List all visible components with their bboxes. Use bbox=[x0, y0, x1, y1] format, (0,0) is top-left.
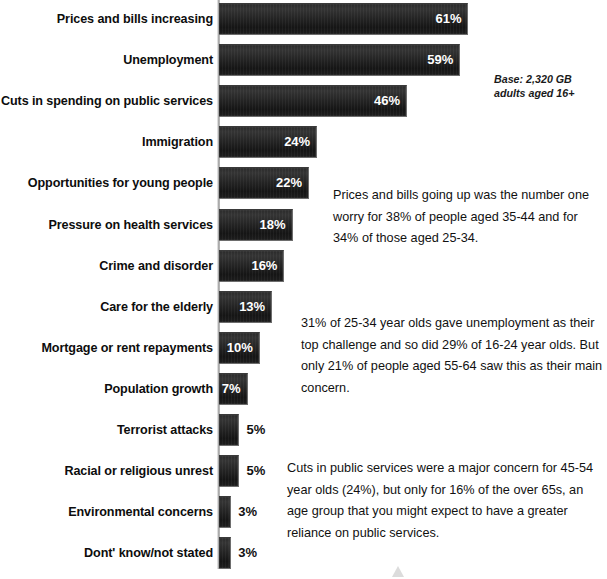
category-label: Care for the elderly bbox=[100, 291, 213, 323]
triangle-logo-icon bbox=[392, 566, 404, 577]
bar-wrapper: 61% bbox=[219, 3, 468, 35]
category-label: Dont' know/not stated bbox=[84, 537, 213, 569]
annotation-note-2: 31% of 25-34 year olds gave unemployment… bbox=[301, 313, 606, 399]
category-label: Cuts in spending on public services bbox=[1, 85, 213, 117]
bar-wrapper: 24% bbox=[219, 126, 317, 158]
bar-wrapper: 5% bbox=[219, 414, 239, 446]
bar-value-label: 46% bbox=[374, 85, 400, 117]
bar-value-label: 5% bbox=[246, 455, 265, 487]
category-label: Unemployment bbox=[123, 44, 213, 76]
bar-row: Prices and bills increasing61% bbox=[0, 3, 607, 35]
bar-wrapper: 13% bbox=[219, 291, 272, 323]
annotation-note-1: Prices and bills going up was the number… bbox=[333, 185, 605, 250]
category-label: Population growth bbox=[104, 373, 213, 405]
bar-value-label: 3% bbox=[238, 496, 257, 528]
bar-value-label: 3% bbox=[238, 537, 257, 569]
bar-value-label: 18% bbox=[260, 209, 286, 241]
annotation-note-3: Cuts in public services were a major con… bbox=[287, 458, 605, 544]
bar-row: Immigration24% bbox=[0, 126, 607, 158]
bar bbox=[219, 44, 460, 76]
bar-row: Terrorist attacks5% bbox=[0, 414, 607, 446]
category-label: Prices and bills increasing bbox=[57, 3, 213, 35]
category-label: Immigration bbox=[142, 126, 213, 158]
bar-wrapper: 5% bbox=[219, 455, 239, 487]
bar bbox=[219, 537, 231, 569]
category-label: Terrorist attacks bbox=[117, 414, 213, 446]
bar-wrapper: 59% bbox=[219, 44, 460, 76]
bar bbox=[219, 496, 231, 528]
category-label: Racial or religious unrest bbox=[64, 455, 213, 487]
bar-value-label: 10% bbox=[227, 332, 253, 364]
bar-wrapper: 16% bbox=[219, 250, 284, 282]
category-label: Opportunities for young people bbox=[28, 167, 213, 199]
footer-logo bbox=[392, 566, 476, 579]
bar-value-label: 13% bbox=[239, 291, 265, 323]
bar-value-label: 16% bbox=[251, 250, 277, 282]
bar bbox=[219, 455, 239, 487]
bar-wrapper: 7% bbox=[219, 373, 248, 405]
bar-value-label: 5% bbox=[246, 414, 265, 446]
bar-wrapper: 10% bbox=[219, 332, 260, 364]
chart-container: Prices and bills increasing61%Unemployme… bbox=[0, 0, 607, 579]
bar-value-label: 22% bbox=[276, 167, 302, 199]
bar-wrapper: 3% bbox=[219, 537, 231, 569]
category-label: Mortgage or rent repayments bbox=[41, 332, 213, 364]
bar-wrapper: 3% bbox=[219, 496, 231, 528]
bar-wrapper: 46% bbox=[219, 85, 407, 117]
bar-value-label: 61% bbox=[435, 3, 461, 35]
bar-wrapper: 18% bbox=[219, 209, 293, 241]
bar-row: Crime and disorder16% bbox=[0, 250, 607, 282]
category-label: Crime and disorder bbox=[99, 250, 213, 282]
category-label: Pressure on health services bbox=[48, 209, 213, 241]
bar bbox=[219, 414, 239, 446]
bar-wrapper: 22% bbox=[219, 167, 309, 199]
bar-value-label: 7% bbox=[222, 373, 241, 405]
bar-value-label: 24% bbox=[284, 126, 310, 158]
bar bbox=[219, 3, 468, 35]
category-label: Environmental concerns bbox=[68, 496, 213, 528]
base-note: Base: 2,320 GB adults aged 16+ bbox=[494, 72, 604, 100]
bar-value-label: 59% bbox=[427, 44, 453, 76]
